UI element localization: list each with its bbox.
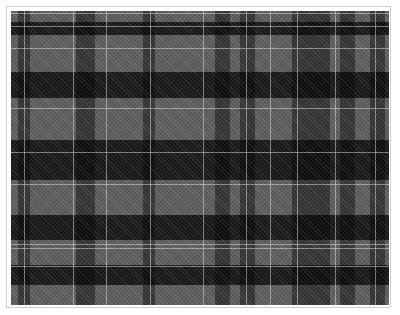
tartan-pattern bbox=[11, 11, 389, 305]
weave-texture bbox=[11, 11, 389, 305]
